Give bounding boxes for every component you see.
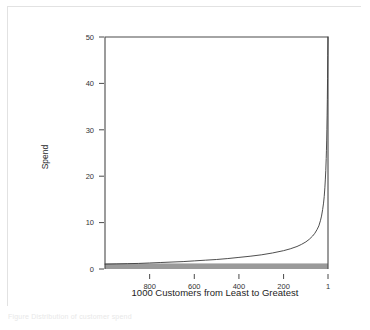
y-axis-tick-label: 10 — [86, 218, 94, 227]
x-axis-title: 1000 Customers from Least to Greatest — [132, 287, 299, 298]
figure-card: 01020304050 8006004002001 Spend 1000 Cus… — [7, 6, 361, 306]
figure-caption-text: Figure Distribution of customer spend — [8, 312, 362, 322]
y-axis-tick-label: 50 — [86, 33, 94, 42]
spend-distribution-chart: 01020304050 8006004002001 Spend 1000 Cus… — [8, 7, 362, 307]
x-axis-tick-label: 1 — [326, 282, 330, 291]
y-axis-title: Spend — [40, 144, 50, 169]
y-axis-tick-label: 40 — [86, 79, 94, 88]
y-axis-tick-label: 30 — [86, 126, 94, 135]
baseline-shaded-band — [105, 263, 328, 269]
y-axis-tick-label: 20 — [86, 172, 94, 181]
y-axis-tick-label: 0 — [90, 265, 94, 274]
figure-caption-strip: Figure Distribution of customer spend — [8, 312, 362, 328]
chart-background — [8, 7, 362, 307]
